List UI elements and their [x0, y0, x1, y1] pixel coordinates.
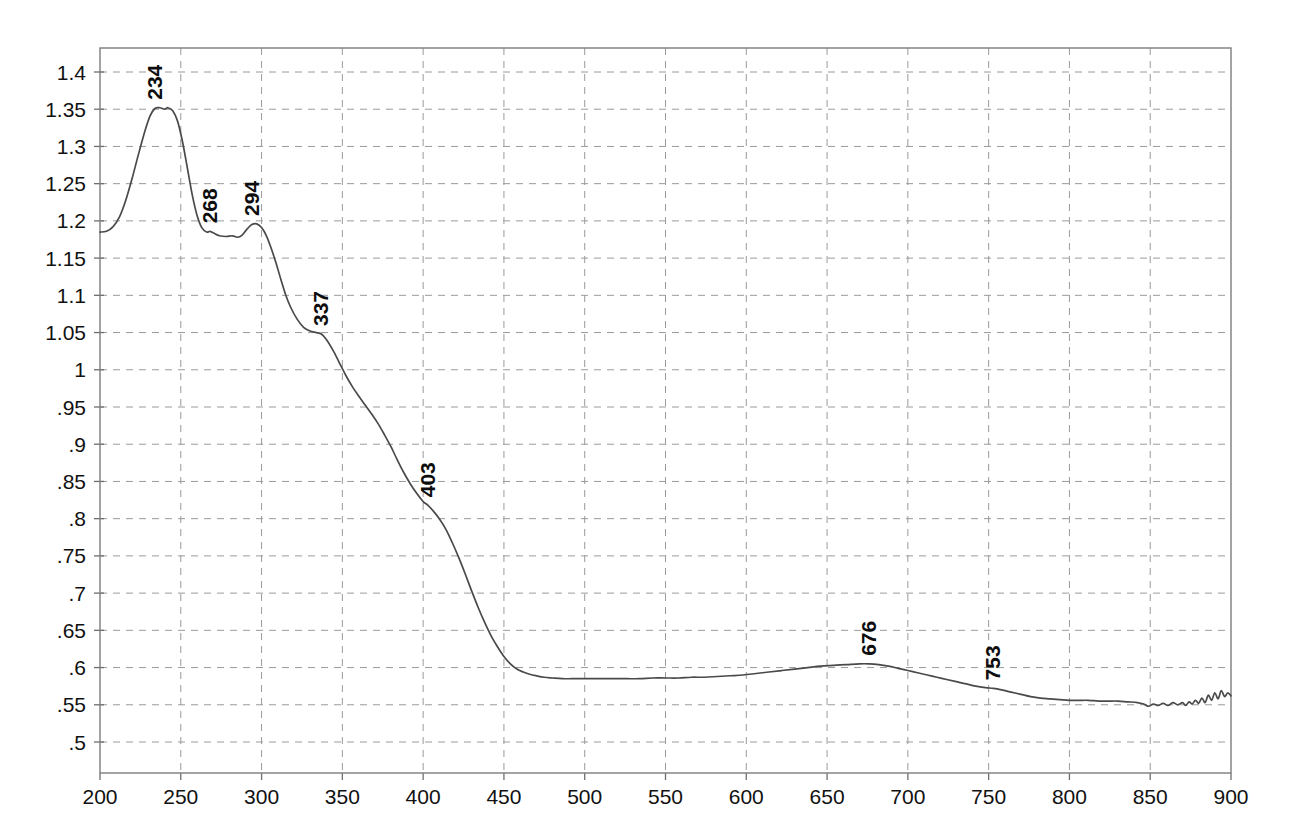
peak-annotations: 234268294337403676753: [143, 64, 1005, 680]
y-axis-tick-label: 1.25: [45, 172, 86, 195]
x-axis-tick-label: 550: [648, 785, 683, 808]
uv-vis-spectrum-chart: .5.55.6.65.7.75.8.85.9.9511.051.11.151.2…: [0, 0, 1299, 839]
y-axis-tick-label: 1.05: [45, 321, 86, 344]
x-axis-tick-label: 400: [406, 785, 441, 808]
peak-annotation-label: 294: [240, 181, 263, 216]
y-axis-tick-label: .9: [68, 433, 86, 456]
x-axis-tick-label: 350: [325, 785, 360, 808]
grid-lines: [100, 48, 1231, 773]
x-axis-tick-label: 250: [163, 785, 198, 808]
y-axis-tick-label: 1.3: [57, 135, 86, 158]
x-axis-tick-label: 700: [890, 785, 925, 808]
y-axis-tick-label: .8: [68, 507, 86, 530]
x-axis-tick-label: 900: [1213, 785, 1248, 808]
y-axis-tick-label: .55: [57, 693, 86, 716]
x-axis-tick-label: 750: [971, 785, 1006, 808]
peak-annotation-label: 234: [143, 64, 166, 99]
y-axis-tick-label: .65: [57, 619, 86, 642]
peak-annotation-label: 676: [857, 621, 880, 656]
y-axis-tick-label: .75: [57, 544, 86, 567]
y-axis-tick-label: .95: [57, 396, 86, 419]
x-axis-tick-label: 300: [244, 785, 279, 808]
y-axis-tick-label: 1.35: [45, 98, 86, 121]
x-axis-tick-label: 450: [486, 785, 521, 808]
y-axis-tick-label: .7: [68, 582, 86, 605]
peak-annotation-label: 403: [416, 462, 439, 497]
y-axis-tick-label: .5: [68, 731, 86, 754]
y-axis-tick-label: 1.15: [45, 247, 86, 270]
peak-annotation-label: 753: [981, 645, 1004, 680]
peak-annotation-label: 268: [198, 188, 221, 223]
y-axis-tick-label: .6: [68, 656, 86, 679]
y-axis-tick-label: 1.2: [57, 209, 86, 232]
spectrum-chart-page: .5.55.6.65.7.75.8.85.9.9511.051.11.151.2…: [0, 0, 1299, 839]
x-axis-tick-label: 650: [810, 785, 845, 808]
y-axis-tick-label: 1.1: [57, 284, 86, 307]
peak-annotation-label: 337: [309, 291, 332, 326]
x-axis-tick-label: 200: [82, 785, 117, 808]
y-axis-tick-labels: .5.55.6.65.7.75.8.85.9.9511.051.11.151.2…: [45, 61, 86, 754]
x-axis-tick-label: 500: [567, 785, 602, 808]
y-axis-tick-label: 1.4: [57, 61, 87, 84]
y-axis-tick-label: .85: [57, 470, 86, 493]
x-axis-tick-label: 800: [1052, 785, 1087, 808]
y-axis-tick-label: 1: [74, 358, 86, 381]
axis-tickmarks: [94, 72, 1231, 780]
x-axis-tick-label: 600: [729, 785, 764, 808]
x-axis-tick-labels: 2002503003504004505005506006507007508008…: [82, 785, 1248, 808]
x-axis-tick-label: 850: [1133, 785, 1168, 808]
